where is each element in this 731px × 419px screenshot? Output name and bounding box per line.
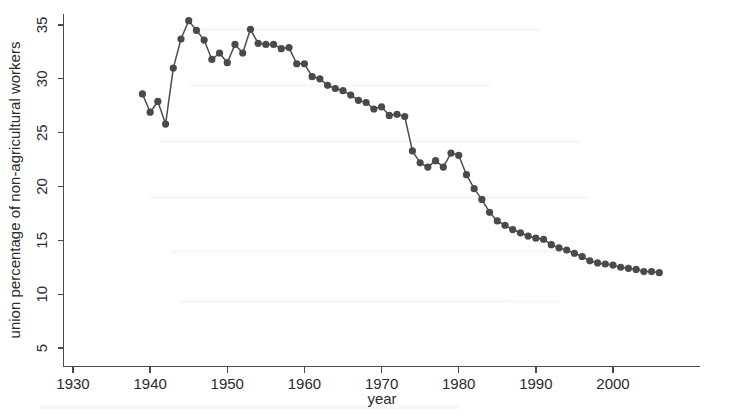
y-tick-label: 30: [33, 70, 50, 87]
data-point: [332, 85, 339, 92]
x-tick-label: 1960: [288, 375, 321, 392]
chart-container: 5101520253035 19301940195019601970198019…: [0, 0, 731, 419]
data-point: [440, 164, 447, 171]
data-point: [262, 41, 269, 48]
data-point: [532, 235, 539, 242]
data-point: [201, 36, 208, 43]
data-point: [548, 241, 555, 248]
x-tick-label: 2000: [596, 375, 629, 392]
x-tick-label: 1980: [442, 375, 475, 392]
data-point: [594, 259, 601, 266]
data-point: [409, 147, 416, 154]
x-tick-label: 1930: [56, 375, 89, 392]
data-point: [208, 56, 215, 63]
data-point: [401, 113, 408, 120]
data-point: [370, 105, 377, 112]
data-point: [563, 246, 570, 253]
data-point: [255, 40, 262, 47]
y-tick-label: 15: [33, 232, 50, 249]
data-point: [432, 157, 439, 164]
data-point: [293, 60, 300, 67]
data-point: [170, 64, 177, 71]
data-point: [633, 266, 640, 273]
data-point: [656, 269, 663, 276]
y-axis-ticks: 5101520253035: [33, 17, 64, 353]
x-tick-label: 1950: [211, 375, 244, 392]
data-point: [486, 209, 493, 216]
data-point: [640, 268, 647, 275]
series-line: [142, 21, 659, 273]
data-point: [324, 82, 331, 89]
data-point: [363, 99, 370, 106]
data-point: [301, 60, 308, 67]
data-point: [463, 171, 470, 178]
data-point: [517, 229, 524, 236]
x-tick-label: 1970: [365, 375, 398, 392]
data-point: [609, 262, 616, 269]
data-point: [417, 159, 424, 166]
data-point: [571, 250, 578, 257]
data-point: [285, 44, 292, 51]
y-axis-title: union percentage of non-agricultural wor…: [6, 42, 23, 339]
data-point: [471, 185, 478, 192]
data-point: [309, 73, 316, 80]
data-point: [625, 265, 632, 272]
data-point: [316, 75, 323, 82]
data-point: [193, 27, 200, 34]
data-point: [216, 49, 223, 56]
data-point: [378, 103, 385, 110]
data-point: [393, 111, 400, 118]
data-point: [501, 222, 508, 229]
data-point: [239, 49, 246, 56]
y-tick-label: 25: [33, 124, 50, 141]
data-point: [525, 232, 532, 239]
x-axis-title: year: [367, 390, 396, 407]
data-point: [478, 196, 485, 203]
data-point: [147, 109, 154, 116]
data-point: [355, 97, 362, 104]
data-point: [162, 120, 169, 127]
data-point: [494, 217, 501, 224]
x-tick-label: 1940: [133, 375, 166, 392]
data-point: [224, 59, 231, 66]
data-point: [447, 150, 454, 157]
x-axis-ticks: 19301940195019601970198019902000: [56, 367, 629, 392]
y-tick-label: 10: [33, 286, 50, 303]
data-point: [177, 35, 184, 42]
data-point: [347, 91, 354, 98]
data-point: [231, 41, 238, 48]
data-point: [555, 244, 562, 251]
data-point: [602, 260, 609, 267]
scan-noise: [40, 28, 590, 409]
data-point: [579, 253, 586, 260]
data-point: [278, 45, 285, 52]
data-point: [648, 268, 655, 275]
data-point: [247, 26, 254, 33]
y-tick-label: 35: [33, 17, 50, 34]
data-point: [586, 257, 593, 264]
line-chart-plot: 5101520253035 19301940195019601970198019…: [0, 0, 731, 419]
data-point: [154, 98, 161, 105]
data-point: [424, 164, 431, 171]
series-markers: [139, 17, 663, 276]
data-point: [455, 152, 462, 159]
data-point: [617, 264, 624, 271]
data-point: [509, 226, 516, 233]
data-point: [540, 236, 547, 243]
data-point: [139, 90, 146, 97]
data-point: [185, 17, 192, 24]
x-tick-label: 1990: [519, 375, 552, 392]
y-tick-label: 5: [33, 344, 50, 352]
data-point: [386, 112, 393, 119]
data-point: [339, 87, 346, 94]
y-tick-label: 20: [33, 178, 50, 195]
data-point: [270, 41, 277, 48]
